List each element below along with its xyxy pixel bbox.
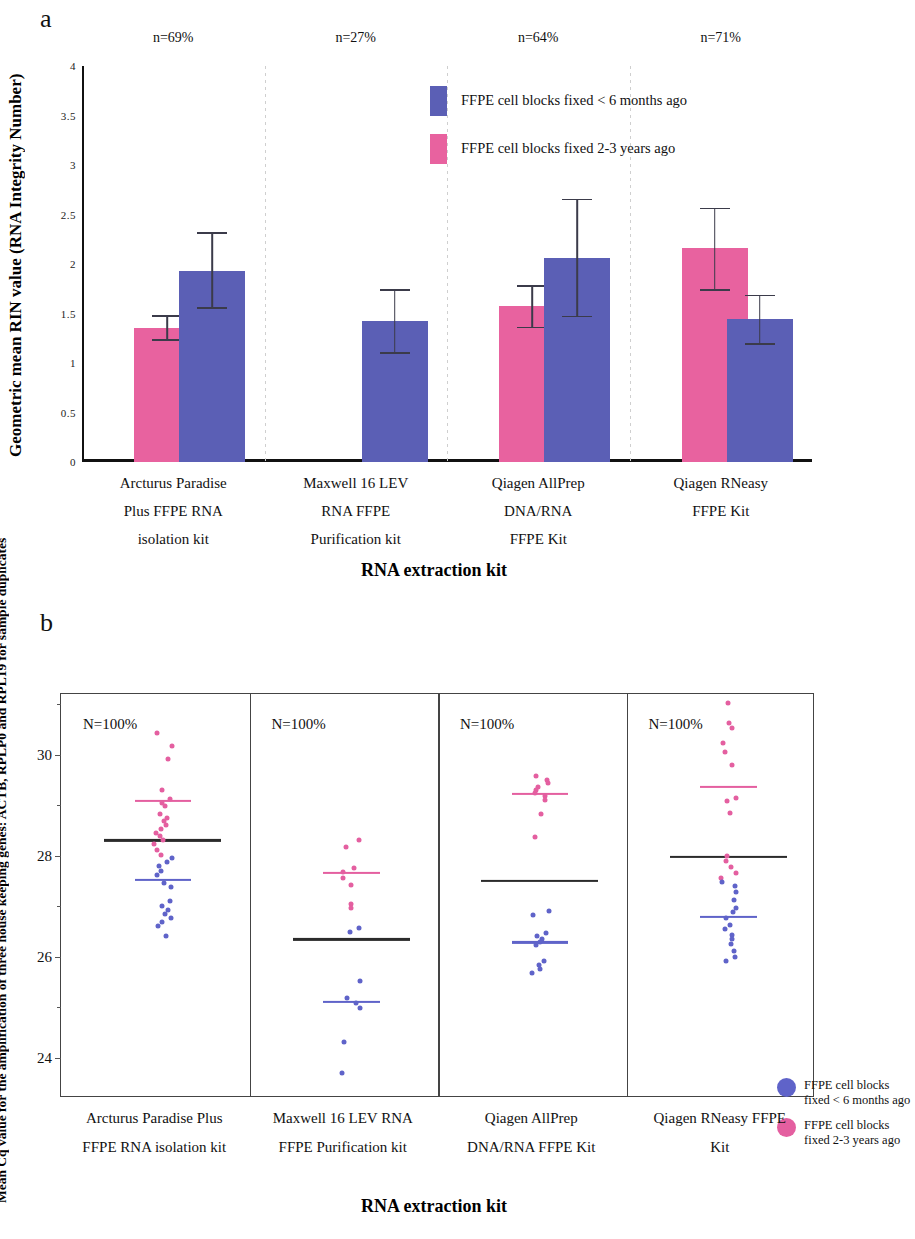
panel-b-group: N=100%: [627, 694, 816, 1096]
panel-b-data-point-blue: [733, 883, 738, 888]
panel-b-data-point-blue: [723, 927, 728, 932]
panel-b-data-point-pink: [168, 797, 173, 802]
panel-b-data-point-blue: [731, 910, 736, 915]
panel-b-data-point-pink: [163, 823, 168, 828]
panel-b-data-point-blue: [155, 872, 160, 877]
panel-a-y-tick-label: 2.5: [61, 209, 76, 221]
panel-b-category-label-line: Qiagen RNeasy FFPE: [654, 1104, 787, 1133]
panel-b-data-point-blue: [724, 958, 729, 963]
panel-a-category-label-line: Qiagen RNeasy: [673, 470, 768, 498]
panel-b-legend-label-line: fixed < 6 months ago: [804, 1093, 910, 1108]
error-bar-cap-bottom: [562, 316, 592, 318]
panel-b-legend: FFPE cell blocksfixed < 6 months agoFFPE…: [777, 1078, 915, 1158]
error-bar-cap-top: [517, 285, 547, 287]
panel-a-y-axis-line: [82, 66, 84, 462]
panel-a-y-tick-label: 0: [70, 456, 76, 468]
error-bar-cap-bottom: [380, 352, 410, 354]
panel-b-data-point-pink: [734, 796, 739, 801]
panel-a: a Geometric mean RIN value (RNA Integrit…: [0, 0, 868, 600]
panel-b-data-point-blue: [546, 909, 551, 914]
error-bar-stem: [166, 315, 168, 341]
panel-b-data-point-blue: [164, 859, 169, 864]
panel-a-y-axis-title: Geometric mean RIN value (RNA Integrity …: [6, 60, 26, 470]
panel-b-data-point-blue: [159, 920, 164, 925]
panel-b-data-point-blue: [164, 934, 169, 939]
panel-b-data-point-pink: [723, 749, 728, 754]
panel-a-category-label-line: FFPE Kit: [673, 498, 768, 526]
panel-b-data-point-pink: [730, 762, 735, 767]
panel-b-n-label: N=100%: [649, 716, 703, 733]
panel-a-y-tick-label: 0.5: [61, 407, 76, 419]
panel-b-legend-label: FFPE cell blocksfixed 2-3 years ago: [804, 1118, 900, 1148]
panel-b-data-point-pink: [730, 726, 735, 731]
panel-b-data-point-pink: [154, 847, 159, 852]
panel-b-legend-item: FFPE cell blocksfixed < 6 months ago: [777, 1078, 915, 1108]
panel-b-y-tick-label: 26: [37, 948, 52, 965]
error-bar-cap-bottom: [197, 307, 227, 309]
panel-b-data-point-pink: [532, 790, 537, 795]
panel-b-n-label: N=100%: [460, 716, 514, 733]
panel-b-data-point-blue: [542, 958, 547, 963]
panel-b-data-point-blue: [155, 924, 160, 929]
panel-b-data-point-blue: [719, 879, 724, 884]
panel-b-category-label-line: Qiagen AllPrep: [467, 1104, 595, 1133]
panel-a-group-separator: [265, 66, 266, 462]
panel-a-y-tick-label: 3.5: [61, 110, 76, 122]
panel-b-data-point-pink: [157, 812, 162, 817]
panel-b-data-point-blue: [354, 1001, 359, 1006]
panel-b-mean-line-overall: [481, 880, 598, 882]
panel-b-data-point-pink: [543, 798, 548, 803]
panel-b-data-point-blue: [731, 898, 736, 903]
panel-a-n-label: n=64%: [518, 30, 559, 46]
panel-b-data-point-blue: [530, 913, 535, 918]
panel-b-mean-line-pink: [323, 872, 380, 874]
panel-b-data-point-pink: [155, 731, 160, 736]
panel-b-data-point-blue: [358, 978, 363, 983]
panel-b-data-point-blue: [168, 899, 173, 904]
panel-a-category-label: Arcturus ParadisePlus FFPE RNAisolation …: [120, 470, 227, 553]
panel-b-data-point-pink: [160, 838, 165, 843]
panel-a-y-tick-label: 1.5: [61, 308, 76, 320]
panel-b-data-point-blue: [723, 916, 728, 921]
panel-b-data-point-pink: [728, 811, 733, 816]
panel-a-category-label-line: Arcturus Paradise: [120, 470, 227, 498]
error-bar-stem: [759, 295, 761, 345]
panel-b-legend-label: FFPE cell blocksfixed < 6 months ago: [804, 1078, 910, 1108]
panel-b-mean-line-blue: [700, 916, 757, 918]
error-bar-stem: [531, 285, 533, 329]
panel-b-legend-dot: [777, 1078, 796, 1097]
panel-b: b Mean Cq value for the amplification of…: [0, 600, 868, 1239]
panel-b-group: N=100%: [250, 694, 439, 1096]
panel-b-group: N=100%: [61, 694, 250, 1096]
panel-a-legend: FFPE cell blocks fixed < 6 months agoFFP…: [430, 86, 760, 182]
error-bar-stem: [211, 232, 213, 308]
panel-b-data-point-pink: [546, 780, 551, 785]
panel-b-category-label: Maxwell 16 LEV RNAFFPE Purification kit: [273, 1104, 413, 1161]
panel-a-category-label: Qiagen AllPrepDNA/RNAFFPE Kit: [492, 470, 585, 553]
panel-b-data-point-blue: [168, 916, 173, 921]
panel-b-category-label: Arcturus Paradise PlusFFPE RNA isolation…: [82, 1104, 226, 1161]
panel-b-data-point-blue: [345, 996, 350, 1001]
error-bar-cap-top: [700, 208, 730, 210]
panel-b-data-point-blue: [537, 966, 542, 971]
panel-b-category-label-line: Kit: [654, 1133, 787, 1162]
panel-b-data-point-blue: [733, 889, 738, 894]
panel-a-legend-swatch: [430, 86, 447, 116]
error-bar-cap-bottom: [152, 339, 182, 341]
panel-a-category-label-line: Maxwell 16 LEV: [303, 470, 408, 498]
panel-b-legend-label-line: fixed 2-3 years ago: [804, 1133, 900, 1148]
panel-b-data-point-pink: [159, 787, 164, 792]
panel-b-data-point-blue: [357, 1006, 362, 1011]
panel-b-plot-frame: 30282624 N=100%N=100%N=100%N=100% FFPE c…: [60, 693, 814, 1097]
panel-a-n-label: n=69%: [153, 30, 194, 46]
panel-b-data-point-pink: [728, 864, 733, 869]
panel-b-data-point-blue: [728, 923, 733, 928]
panel-b-data-point-pink: [159, 852, 164, 857]
panel-b-data-point-blue: [159, 868, 164, 873]
panel-b-data-point-pink: [351, 865, 356, 870]
panel-b-n-label: N=100%: [83, 716, 137, 733]
panel-b-data-point-blue: [347, 930, 352, 935]
panel-a-n-label: n=27%: [335, 30, 376, 46]
panel-a-n-label: n=71%: [700, 30, 741, 46]
panel-b-data-point-blue: [356, 926, 361, 931]
